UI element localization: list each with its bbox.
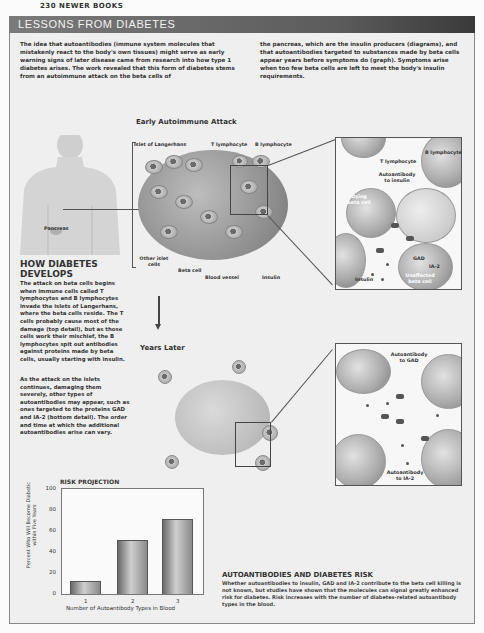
label-islet: Islet of Langerhans: [134, 142, 186, 148]
bar-1: [70, 581, 101, 594]
intro-text-right: the pancreas, which are the insulin prod…: [260, 40, 460, 80]
page-title: LESSONS FROM DIABETES: [18, 18, 175, 30]
islet-cell: [150, 185, 168, 199]
x-tick-3: 3: [176, 598, 180, 604]
early-attack-title: Early Autoimmune Attack: [136, 118, 237, 126]
detail-label-insulin: Insulin: [355, 277, 373, 283]
islet-cell: [145, 160, 163, 174]
risk-section-title: AUTOANTIBODIES AND DIABETES RISK: [222, 571, 373, 579]
y-tick-100: 100: [38, 485, 56, 491]
detail-label-autoantibody-gad: Autoantibody to GAD: [390, 352, 428, 364]
how-diabetes-develops-title: HOW DIABETES DEVELOPS: [20, 259, 98, 279]
islet-bracket: [132, 142, 136, 268]
zoom-region-top: [230, 165, 268, 215]
how-develops-paragraph-1: The attack on beta cells begins when imm…: [20, 280, 130, 364]
label-b-lymphocyte: B lymphocyte: [255, 142, 292, 148]
risk-section-body: Whether autoantibodies to insulin, GAD a…: [222, 580, 467, 608]
down-arrow-icon: [158, 296, 160, 326]
intro-text-left: The idea that autoantibodies (immune sys…: [20, 40, 242, 80]
how-develops-paragraph-2: As the attack on the islets continues, d…: [20, 376, 130, 437]
lymphocyte-cell: [158, 370, 172, 384]
pancreas-pointer: [63, 209, 143, 210]
label-insulin: Insulin: [262, 275, 280, 281]
islet-cell: [165, 155, 183, 169]
detail-label-gad: GAD: [413, 256, 425, 262]
bar-3: [162, 519, 193, 594]
islet-cell: [160, 225, 178, 239]
detail-label-dying-beta-cell: Dying beta cell: [345, 194, 373, 206]
how-title-line1: HOW DIABETES: [20, 259, 98, 269]
y-tick-60: 60: [38, 527, 56, 533]
human-body-illustration: [20, 135, 120, 255]
chart-x-axis-label: Number of Autoantibody Types in Blood: [66, 605, 175, 611]
detail-label-autoantibody-ia2: Autoantibody to IA-2: [386, 470, 424, 482]
detail-label-b-lymphocyte: B lymphocyte: [425, 150, 462, 156]
detail-label-t-lymphocyte: T lymphocyte: [380, 159, 416, 165]
islet-cell: [175, 195, 193, 209]
detail-box-later: [335, 343, 462, 486]
label-t-lymphocyte: T lymphocyte: [211, 142, 247, 148]
label-pancreas: Pancreas: [44, 226, 69, 232]
chart-y-axis-label: Percent Who Will Become Diabetic within …: [25, 475, 37, 575]
islet-cell: [225, 225, 243, 239]
y-tick-80: 80: [38, 506, 56, 512]
years-later-title: Years Later: [140, 344, 185, 352]
how-title-line2: DEVELOPS: [20, 269, 98, 279]
detail-label-unaffected-beta-cell: Unaffected beta cell: [403, 273, 437, 285]
x-tick-2: 2: [131, 598, 135, 604]
bar-2: [117, 540, 148, 594]
chart-plot-area: [61, 488, 204, 595]
chart-title: RISK PROJECTION: [60, 478, 119, 485]
lymphocyte-cell: [232, 360, 246, 374]
islet-cell: [200, 210, 218, 224]
label-beta-cell: Beta cell: [178, 268, 202, 274]
label-other-islet-cells: Other islet cells: [139, 256, 169, 268]
page-header: 230 NEWER BOOKS: [40, 2, 123, 10]
islet-cell: [185, 158, 203, 172]
y-tick-20: 20: [38, 569, 56, 575]
lymphocyte-cell: [165, 455, 179, 469]
y-tick-40: 40: [38, 548, 56, 554]
x-tick-1: 1: [84, 598, 88, 604]
label-blood-vessel: Blood vessel: [205, 275, 239, 281]
y-tick-0: 0: [38, 590, 56, 596]
detail-label-autoantibody-insulin: Autoantibody to insulin: [377, 172, 417, 184]
detail-label-ia2: IA-2: [429, 264, 440, 270]
zoom-region-bottom: [235, 422, 271, 467]
